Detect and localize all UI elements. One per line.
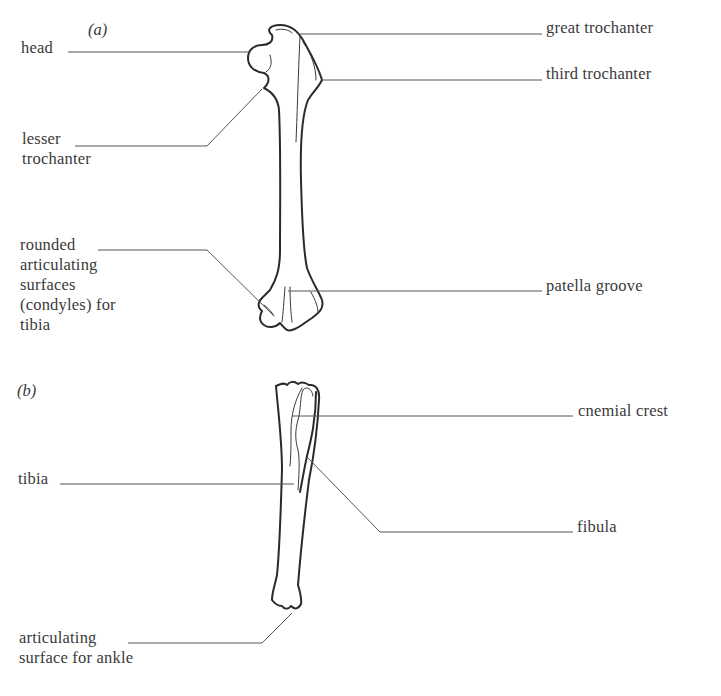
label-tibia: tibia (18, 469, 48, 489)
patella-groove-line-1 (282, 287, 285, 322)
label-great-trochanter: great trochanter (546, 18, 653, 38)
femur-ridge (296, 36, 300, 142)
label-cnemial-crest: cnemial crest (578, 401, 668, 421)
patella-groove-line-2 (290, 287, 292, 322)
label-fibula: fibula (577, 517, 617, 537)
tibia-leaders (60, 416, 573, 643)
femur-leaders (68, 34, 542, 316)
label-rounded-articulating-surfaces: rounded articulating surfaces (condyles)… (20, 235, 116, 335)
bone-diagram (0, 0, 721, 696)
label-ankle-articulating-surface: articulating surface for ankle (19, 628, 133, 668)
panel-tag-a: (a) (88, 20, 107, 40)
panel-tag-b: (b) (17, 381, 36, 401)
leader-ankle-surface (128, 613, 292, 643)
leader-rounded-surfaces (98, 250, 274, 316)
femur-outline (248, 25, 323, 330)
femur-head-detail (266, 55, 271, 72)
femur-drawing (248, 25, 323, 330)
condyle-detail (311, 292, 318, 312)
fibula-outline (300, 392, 316, 492)
label-head: head (21, 38, 53, 58)
femur-top-detail (276, 29, 292, 33)
label-third-trochanter: third trochanter (546, 64, 651, 84)
leader-fibula (307, 457, 573, 532)
label-lesser-trochanter: lesser trochanter (22, 129, 91, 169)
label-patella-groove: patella groove (546, 276, 643, 296)
leader-lesser-trochanter (75, 89, 262, 146)
